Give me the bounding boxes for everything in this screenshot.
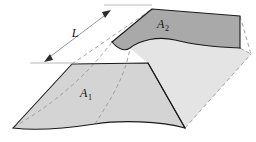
stream-tube-diagram: L A1 A2 xyxy=(0,0,256,142)
length-label: L xyxy=(71,26,79,40)
area-1-label-base: A xyxy=(79,86,88,100)
figure-container: L A1 A2 xyxy=(0,0,256,142)
hidden-edge-right-top xyxy=(240,16,251,54)
area-2-label-base: A xyxy=(156,17,165,31)
area-2-label-subscript: 2 xyxy=(165,24,169,33)
area-1-label-subscript: 1 xyxy=(88,93,92,102)
solid-faces xyxy=(13,9,251,129)
